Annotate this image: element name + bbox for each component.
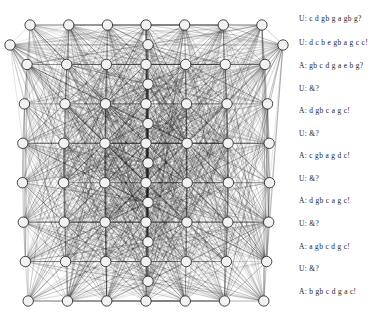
graph-node-28 bbox=[182, 138, 192, 148]
graph-node-62 bbox=[259, 296, 269, 306]
graph-node-1 bbox=[64, 20, 74, 30]
graph-node-33 bbox=[58, 178, 68, 188]
graph-node-36 bbox=[182, 178, 192, 188]
graph-node-48 bbox=[20, 256, 30, 266]
graph-node-4 bbox=[179, 20, 189, 30]
graph-node-35 bbox=[141, 178, 151, 188]
graph-node-14 bbox=[260, 59, 270, 69]
graph-node-20 bbox=[181, 99, 191, 109]
graph-node-0 bbox=[25, 20, 35, 30]
dialogue-line-a-8: A: d gb c a g c! bbox=[299, 196, 350, 205]
graph-node-38 bbox=[264, 178, 274, 188]
graph-node-34 bbox=[100, 178, 110, 188]
graph-svg bbox=[0, 0, 292, 325]
graph-node-44 bbox=[182, 217, 192, 227]
graph-node-55 bbox=[143, 276, 153, 286]
graph-node-52 bbox=[181, 256, 191, 266]
figure-root: U: c d gb g a gb g?U: d c b e gb a g c c… bbox=[0, 0, 387, 325]
graph-panel bbox=[0, 0, 292, 325]
graph-node-12 bbox=[180, 59, 190, 69]
graph-node-45 bbox=[223, 217, 233, 227]
graph-node-10 bbox=[101, 59, 111, 69]
graph-node-11 bbox=[141, 59, 151, 69]
graph-node-47 bbox=[143, 237, 153, 247]
dialogue-line-u-7: U: &? bbox=[299, 174, 319, 183]
graph-node-22 bbox=[262, 99, 272, 109]
graph-node-2 bbox=[102, 20, 112, 30]
graph-node-7 bbox=[143, 40, 153, 50]
graph-node-39 bbox=[143, 197, 153, 207]
graph-node-16 bbox=[19, 99, 29, 109]
graph-node-25 bbox=[59, 138, 69, 148]
graph-node-31 bbox=[143, 158, 153, 168]
graph-node-8 bbox=[22, 59, 32, 69]
graph-node-41 bbox=[59, 217, 69, 227]
graph-node-30 bbox=[264, 138, 274, 148]
graph-node-19 bbox=[141, 99, 151, 109]
graph-node-9 bbox=[61, 59, 71, 69]
dialogue-line-a-6: A: c gb a g d c! bbox=[299, 151, 350, 160]
graph-node-61 bbox=[219, 296, 229, 306]
graph-node-17 bbox=[60, 99, 70, 109]
dialogue-line-a-2: A: gb c d g a e b g? bbox=[299, 61, 363, 70]
graph-node-15 bbox=[143, 79, 153, 89]
dialogue-line-u-5: U: &? bbox=[299, 129, 319, 138]
graph-node-58 bbox=[102, 296, 112, 306]
graph-node-21 bbox=[222, 99, 232, 109]
graph-node-6 bbox=[257, 20, 267, 30]
graph-node-40 bbox=[18, 217, 28, 227]
graph-node-54 bbox=[261, 256, 271, 266]
graph-node-29 bbox=[223, 138, 233, 148]
graph-node-51 bbox=[141, 256, 151, 266]
graph-node-24 bbox=[18, 138, 28, 148]
graph-node-63 bbox=[5, 40, 15, 50]
graph-node-49 bbox=[60, 256, 70, 266]
dialogue-line-u-11: U: &? bbox=[299, 264, 319, 273]
graph-node-50 bbox=[101, 256, 111, 266]
graph-node-26 bbox=[100, 138, 110, 148]
dialogue-line-u-3: U: &? bbox=[299, 84, 319, 93]
graph-node-59 bbox=[141, 296, 151, 306]
graph-node-32 bbox=[17, 178, 27, 188]
dialogue-line-u-0: U: c d gb g a gb g? bbox=[299, 14, 362, 23]
graph-node-57 bbox=[62, 296, 72, 306]
dialogue-line-a-10: A: a gb c d g c! bbox=[299, 242, 350, 251]
graph-node-13 bbox=[220, 59, 230, 69]
graph-node-37 bbox=[223, 178, 233, 188]
dialogue-line-a-12: A: b gb c d g a c! bbox=[299, 287, 356, 296]
graph-node-60 bbox=[180, 296, 190, 306]
graph-node-5 bbox=[218, 20, 228, 30]
dialogue-line-u-1: U: d c b e gb a g c c! bbox=[299, 38, 368, 47]
graph-node-43 bbox=[141, 217, 151, 227]
dialogue-line-u-9: U: &? bbox=[299, 219, 319, 228]
dialogue-line-a-4: A: d gb c a g c! bbox=[299, 106, 350, 115]
graph-node-27 bbox=[141, 138, 151, 148]
graph-node-18 bbox=[100, 99, 110, 109]
graph-node-23 bbox=[143, 118, 153, 128]
graph-node-53 bbox=[221, 256, 231, 266]
graph-node-56 bbox=[23, 296, 33, 306]
graph-node-3 bbox=[141, 20, 151, 30]
graph-node-42 bbox=[100, 217, 110, 227]
graph-node-46 bbox=[263, 217, 273, 227]
graph-node-64 bbox=[278, 40, 288, 50]
dialogue-panel: U: c d gb g a gb g?U: d c b e gb a g c c… bbox=[294, 0, 387, 325]
